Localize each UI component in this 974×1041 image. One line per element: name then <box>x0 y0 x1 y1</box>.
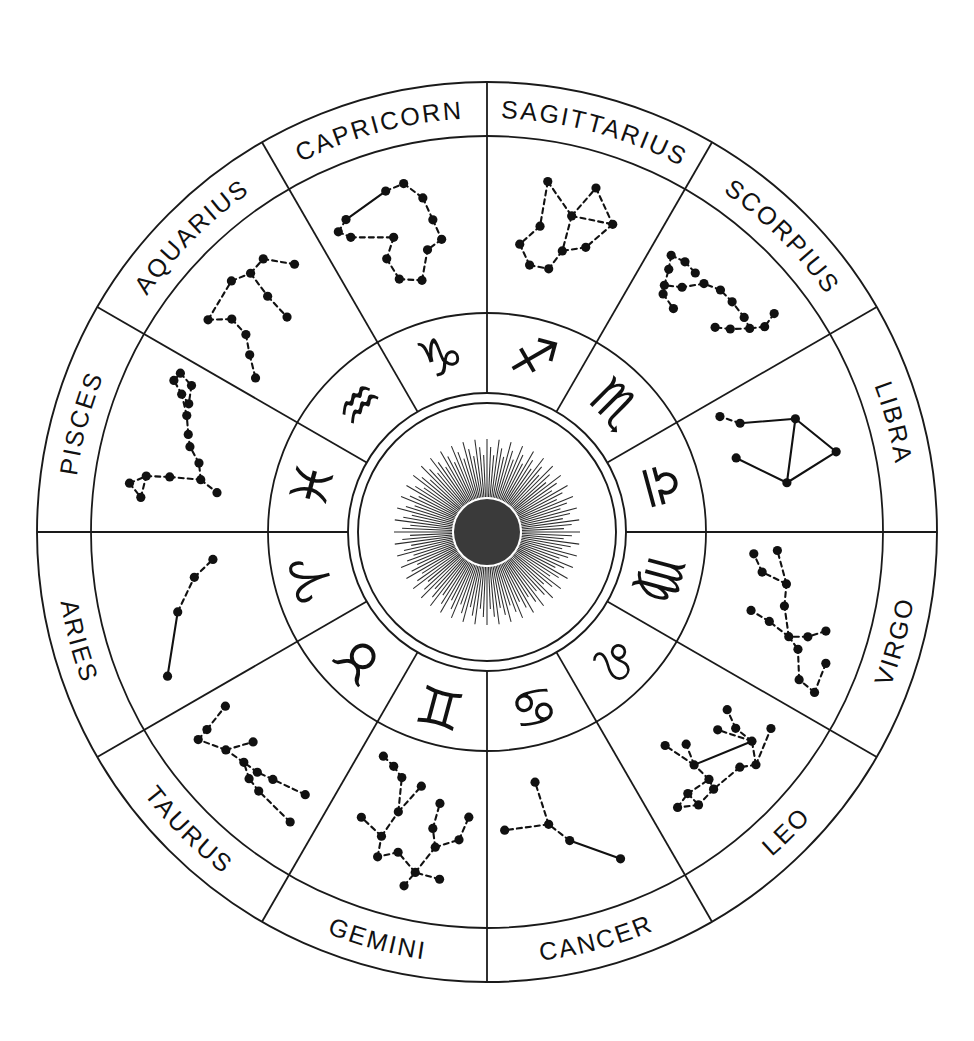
sign-label-leo: LEO <box>756 801 815 860</box>
star-link <box>208 281 231 320</box>
star-dot <box>428 215 437 224</box>
star-dot <box>196 475 205 484</box>
star-dot <box>530 778 539 787</box>
star-dot <box>163 672 172 681</box>
star-dot <box>699 279 708 288</box>
star-dot <box>221 702 230 711</box>
star-link <box>168 612 178 676</box>
star-dot <box>821 659 830 668</box>
star-dot <box>567 211 576 220</box>
star-dot <box>749 549 758 558</box>
star-dot <box>803 632 812 641</box>
star-link <box>562 216 571 251</box>
star-dot <box>711 323 720 332</box>
star-dot <box>746 606 755 615</box>
sign-label-cancer: CANCER <box>537 909 657 966</box>
star-dot <box>393 848 402 857</box>
star-dot <box>341 215 350 224</box>
star-dot <box>437 235 446 244</box>
sign-label-text: LEO <box>756 801 815 860</box>
star-dot <box>704 775 713 784</box>
zodiac-wheel-svg: ♐♏♎♍♌♋♊♉♈♓♒♑ SAGITTARIUSSCORPIUSLIBRAVIR… <box>0 0 974 1041</box>
star-link <box>422 250 428 281</box>
star-dot <box>346 233 355 242</box>
star-dot <box>515 240 524 249</box>
sun-ray <box>500 564 522 618</box>
star-dot <box>286 817 295 826</box>
star-dot <box>184 430 193 439</box>
star-dot <box>747 737 756 746</box>
star-link <box>784 606 788 637</box>
star-dot <box>543 177 552 186</box>
star-link <box>273 779 305 794</box>
sun-ray <box>519 496 573 518</box>
star-dot <box>726 324 735 333</box>
star-dot <box>395 274 404 283</box>
sign-label-sagittarius: SAGITTARIUS <box>501 95 693 171</box>
star-dot <box>680 257 689 266</box>
star-dot <box>373 852 382 861</box>
sector-divider-7 <box>262 652 418 921</box>
pisces-glyph: ♓ <box>277 455 347 516</box>
star-dot <box>660 281 669 290</box>
star-link <box>777 551 786 584</box>
star-dot <box>194 735 203 744</box>
star-dot <box>713 725 722 734</box>
sign-label-libra: LIBRA <box>869 377 918 466</box>
star-dot <box>525 260 534 269</box>
sign-label-text: CANCER <box>537 909 657 966</box>
star-dot <box>694 800 703 809</box>
virgo-glyph: ♍ <box>627 549 697 610</box>
star-link <box>178 577 195 612</box>
star-link <box>815 663 826 692</box>
star-dot <box>435 799 444 808</box>
star-dot <box>664 265 673 274</box>
star-dot <box>259 254 268 263</box>
star-dot <box>715 412 724 421</box>
star-dot <box>690 760 699 769</box>
star-dot <box>751 760 760 769</box>
constellation-libra <box>715 412 840 487</box>
star-dot <box>411 868 420 877</box>
sector-divider-5 <box>557 652 713 921</box>
star-dot <box>773 546 782 555</box>
star-dot <box>227 276 236 285</box>
star-dot <box>136 493 145 502</box>
star-dot <box>241 330 250 339</box>
star-dot <box>669 304 678 313</box>
star-dot <box>382 254 391 263</box>
star-dot <box>203 315 212 324</box>
sign-label-text: LIBRA <box>869 377 918 466</box>
star-dot <box>682 740 691 749</box>
star-dot <box>244 774 253 783</box>
constellation-virgo <box>746 546 830 697</box>
sign-label-text: ARIES <box>56 598 105 687</box>
sun-core <box>454 499 520 565</box>
star-dot <box>723 705 732 714</box>
constellation-leo <box>661 705 776 812</box>
star-dot <box>221 745 230 754</box>
star-dot <box>500 826 509 835</box>
star-dot <box>758 567 767 576</box>
star-dot <box>454 835 463 844</box>
star-link <box>540 182 548 227</box>
star-dot <box>667 251 676 260</box>
sign-label-capricorn: CAPRICORN <box>291 96 464 167</box>
star-dot <box>263 292 272 301</box>
star-link <box>586 224 613 247</box>
star-dot <box>173 607 182 616</box>
gemini-glyph: ♊ <box>410 672 471 742</box>
sun-ray <box>451 446 473 500</box>
star-dot <box>616 854 625 863</box>
capricorn-glyph: ♑ <box>410 322 471 392</box>
star-dot <box>202 725 211 734</box>
star-dot <box>397 773 406 782</box>
star-dot <box>740 313 749 322</box>
star-dot <box>581 243 590 252</box>
star-dot <box>821 626 830 635</box>
star-dot <box>381 186 390 195</box>
star-dot <box>435 875 444 884</box>
star-dot <box>357 813 366 822</box>
star-dot <box>661 741 670 750</box>
star-dot <box>832 447 841 456</box>
